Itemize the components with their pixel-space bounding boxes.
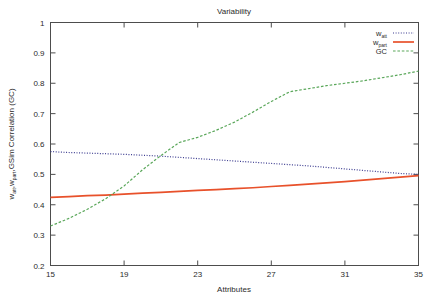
chart-background [0, 0, 434, 302]
y-tick-label: 0.2 [33, 262, 45, 271]
y-tick-label: 0.5 [33, 170, 45, 179]
y-tick-label: 0.4 [33, 201, 45, 210]
variability-line-chart: Variability 0.20.30.40.50.60.70.80.91 15… [0, 0, 434, 302]
y-axis-title: watt,wpart,GSim Correlation (GC) [7, 88, 17, 200]
x-tick-label: 19 [120, 270, 129, 279]
y-tick-label: 0.8 [33, 79, 45, 88]
chart-title: Variability [217, 7, 251, 16]
y-tick-label: 0.6 [33, 140, 45, 149]
x-tick-label: 15 [46, 270, 55, 279]
y-tick-label: 0.9 [33, 49, 45, 58]
y-tick-label: 1 [40, 19, 45, 28]
x-tick-label: 31 [340, 270, 349, 279]
x-tick-label: 27 [267, 270, 276, 279]
y-axis-title-tail: ,GSim Correlation (GC) [7, 88, 16, 171]
y-tick-label: 0.3 [33, 231, 45, 240]
y-axis-title-mid: ,w [7, 180, 16, 188]
legend-label-sub: att [381, 33, 387, 39]
x-tick-label: 23 [193, 270, 202, 279]
legend-label-main: GC [376, 47, 388, 56]
svg-text:watt,wpart,GSim Correlation (G: watt,wpart,GSim Correlation (GC) [7, 88, 17, 200]
x-tick-label: 35 [414, 270, 423, 279]
y-tick-label: 0.7 [33, 110, 45, 119]
legend-label-GC: GC [376, 47, 388, 56]
chart-figure: Variability 0.20.30.40.50.60.70.80.91 15… [0, 0, 434, 302]
y-axis-tick-labels: 0.20.30.40.50.60.70.80.91 [33, 19, 45, 271]
x-axis-title: Attributes [217, 285, 251, 294]
